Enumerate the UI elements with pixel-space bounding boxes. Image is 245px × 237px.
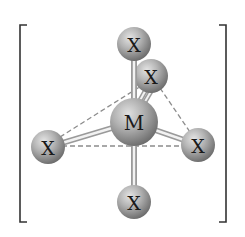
bond-m-right [155, 130, 184, 140]
ligand-back: X [134, 59, 168, 93]
ligand-left-label: X [41, 137, 55, 159]
octahedral-complex-diagram: X X M X X X [0, 0, 245, 237]
ligand-bottom-label: X [127, 192, 141, 214]
ligand-top-label: X [127, 34, 141, 56]
right-bracket [219, 25, 226, 222]
left-bracket [20, 25, 27, 222]
ligand-bottom: X [117, 185, 151, 219]
ligand-right: X [181, 128, 215, 162]
ligand-right-label: X [191, 135, 205, 157]
central-atom: M [110, 98, 158, 146]
ligand-back-label: X [144, 66, 158, 88]
central-atom-label: M [124, 111, 144, 135]
dashed-edge-back-right [160, 88, 190, 132]
ligand-top: X [117, 27, 151, 61]
ligand-left: X [31, 130, 65, 164]
bond-m-left [62, 128, 112, 143]
